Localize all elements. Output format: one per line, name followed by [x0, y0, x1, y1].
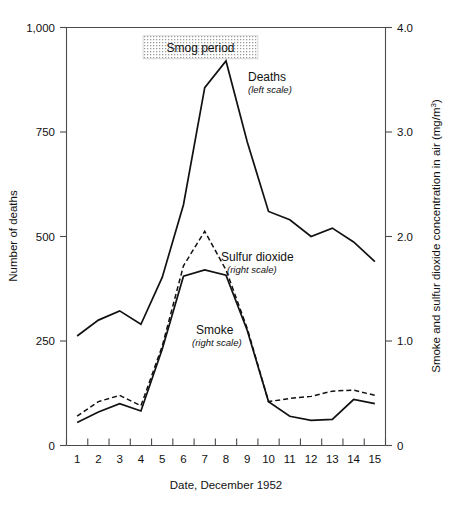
sulfur-dioxide-sublabel: (right scale)	[227, 264, 277, 275]
y-axis-right-title: Smoke and sulfur dioxide concentration i…	[429, 99, 442, 373]
chart-figure: 1,000 750 500 250 0 4.0 3.0 2.0 1.0 0 12…	[0, 0, 457, 512]
left-tick-label-250: 250	[36, 335, 55, 347]
x-tick-label: 11	[284, 453, 296, 465]
x-tick-label: 5	[159, 453, 165, 465]
left-tick-label-1000: 1,000	[26, 22, 55, 34]
series-label-deaths: Deaths (left scale)	[248, 70, 292, 95]
x-axis-tick-labels: 123456789101112131415	[74, 453, 381, 465]
x-tick-label: 7	[202, 453, 208, 465]
x-tick-label: 12	[305, 453, 318, 465]
chart-svg: 1,000 750 500 250 0 4.0 3.0 2.0 1.0 0 12…	[0, 0, 457, 512]
series-label-sulfur-dioxide: Sulfur dioxide (right scale)	[221, 250, 294, 275]
x-tick-label: 1	[74, 453, 80, 465]
x-tick-label: 6	[180, 453, 186, 465]
right-tick-label-4: 4.0	[397, 22, 413, 34]
x-axis-ticks	[67, 439, 386, 446]
y-axis-left-title: Number of deaths	[7, 190, 19, 282]
deaths-sublabel: (left scale)	[248, 84, 292, 95]
smog-period-annotation: Smog period	[143, 36, 258, 59]
x-tick-label: 4	[138, 453, 145, 465]
plot-frame	[67, 27, 386, 446]
x-tick-label: 3	[116, 453, 122, 465]
svg-text:Smoke and sulfur dioxide conce: Smoke and sulfur dioxide concentration i…	[429, 99, 442, 373]
data-series-group	[77, 61, 375, 423]
right-tick-label-2: 2.0	[397, 231, 413, 243]
right-tick-label-1: 1.0	[397, 335, 413, 347]
left-axis-ticks: 1,000 750 500 250 0	[26, 22, 66, 452]
x-axis-title: Date, December 1952	[170, 479, 283, 491]
right-tick-label-3: 3.0	[397, 126, 413, 138]
x-tick-label: 8	[223, 453, 229, 465]
x-tick-label: 15	[368, 453, 381, 465]
left-tick-label-0: 0	[49, 440, 55, 452]
x-tick-label: 14	[347, 453, 360, 465]
deaths-label: Deaths	[248, 70, 286, 84]
left-tick-label-750: 750	[36, 126, 55, 138]
right-tick-label-0: 0	[397, 440, 403, 452]
deaths-line	[77, 61, 375, 336]
x-tick-label: 2	[95, 453, 101, 465]
y-axis-right-title-main: Smoke and sulfur dioxide concentration i…	[430, 108, 442, 373]
x-tick-label: 9	[244, 453, 250, 465]
right-axis-ticks: 4.0 3.0 2.0 1.0 0	[386, 22, 414, 452]
x-tick-label: 13	[326, 453, 339, 465]
x-tick-label: 10	[262, 453, 275, 465]
smoke-sublabel: (right scale)	[192, 337, 242, 348]
smog-period-label: Smog period	[166, 41, 234, 55]
left-tick-label-500: 500	[36, 231, 55, 243]
series-label-smoke: Smoke (right scale)	[192, 323, 242, 348]
smoke-label: Smoke	[196, 323, 234, 337]
sulfur-dioxide-label: Sulfur dioxide	[221, 250, 294, 264]
y-axis-right-title-suffix: )	[430, 99, 442, 103]
